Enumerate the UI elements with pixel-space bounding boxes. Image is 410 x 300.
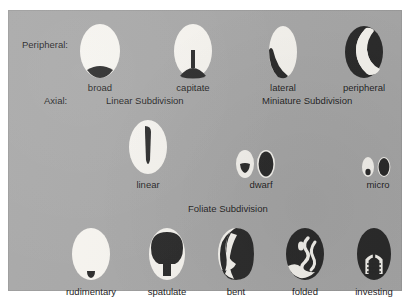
caption-investing: investing xyxy=(355,287,393,297)
seed-diagram-rudimentary xyxy=(68,226,114,282)
caption-capitate: capitate xyxy=(176,83,209,93)
caption-rudimentary: rudimentary xyxy=(66,287,116,297)
seed-diagram-peripheral xyxy=(341,24,387,80)
caption-bent: bent xyxy=(227,287,246,297)
seed-diagram-linear xyxy=(125,118,171,176)
row-label-axial: Axial: xyxy=(44,96,67,106)
seed-diagram-broad xyxy=(77,22,123,80)
caption-linear: linear xyxy=(136,180,159,190)
caption-broad: broad xyxy=(88,83,112,93)
caption-spatulate: spatulate xyxy=(148,287,187,297)
group-title-linear-subdivision: Linear Subdivision xyxy=(106,96,184,106)
caption-folded: folded xyxy=(292,287,318,297)
seed-diagram-investing xyxy=(352,226,396,282)
seed-diagram-folded xyxy=(282,226,328,282)
seed-diagram-bent xyxy=(214,226,258,282)
seed-diagram-lateral xyxy=(265,24,301,80)
seed-diagram-micro xyxy=(360,155,392,179)
seed-embryo-type-figure: Peripheral: broad capitate xyxy=(0,0,410,300)
seed-diagram-spatulate xyxy=(145,226,189,282)
diagram-plate: Peripheral: broad capitate xyxy=(8,10,402,291)
group-title-foliate-subdivision: Foliate Subdivision xyxy=(188,204,268,214)
group-title-miniature-subdivision: Miniature Subdivision xyxy=(262,96,352,106)
row-label-peripheral: Peripheral: xyxy=(22,40,68,50)
caption-lateral: lateral xyxy=(270,83,296,93)
caption-peripheral: peripheral xyxy=(343,83,385,93)
seed-diagram-dwarf xyxy=(235,148,277,180)
caption-dwarf: dwarf xyxy=(249,180,272,190)
seed-diagram-capitate xyxy=(170,22,216,80)
caption-micro: micro xyxy=(366,180,389,190)
